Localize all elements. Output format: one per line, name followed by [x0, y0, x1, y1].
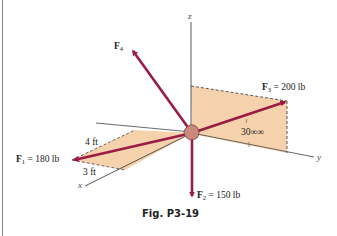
- dimension-3ft: 3 ft: [83, 168, 96, 178]
- f3-label: F3 = 200 lb: [262, 83, 305, 94]
- f2-label: F2 = 150 lb: [197, 191, 240, 202]
- f1-label: F1 = 180 lb: [16, 155, 59, 166]
- x-axis-label: x: [78, 181, 82, 190]
- diagram-graphics: [0, 0, 337, 236]
- y-axis-label: y: [317, 153, 321, 162]
- f4-label: F4: [114, 42, 123, 53]
- angle-label: 30∞∞: [241, 128, 264, 138]
- f3-plane: [191, 86, 287, 153]
- force-diagram: z y x F4 F3 = 200 lb F1 = 180 lb F2 = 15…: [0, 0, 337, 236]
- z-axis-label: z: [188, 12, 192, 21]
- f4-arrow: [133, 51, 192, 133]
- figure-caption: Fig. P3-19: [142, 209, 199, 219]
- dimension-4ft: 4 ft: [85, 138, 98, 148]
